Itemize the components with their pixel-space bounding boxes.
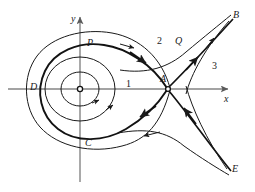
unstable-manifold-A-to-B	[169, 19, 233, 87]
arrow-region3-toward-B	[206, 38, 214, 48]
point-label-E: E	[232, 164, 238, 174]
lower-separatrix-to-E	[118, 131, 229, 175]
phase-portrait-canvas	[0, 0, 255, 192]
homoclinic-loop-path	[40, 44, 167, 139]
trajectories-toward-E	[118, 86, 229, 175]
region3-curve-to-B	[186, 21, 229, 94]
flow-direction-arrows-thin	[92, 38, 214, 136]
point-label-C: C	[85, 138, 92, 148]
center-equilibrium-marker	[77, 86, 82, 91]
arrow-loop-lower-from-A	[140, 106, 156, 117]
region-label-3: 3	[212, 61, 217, 71]
y-axis-label: y	[71, 14, 75, 24]
region3-curve-to-E	[186, 86, 227, 169]
trajectories-toward-B	[120, 15, 231, 94]
region-label-1: 1	[126, 79, 131, 89]
unstable-manifold-upper-path	[169, 19, 233, 87]
point-label-Q: Q	[175, 36, 182, 46]
point-label-D: D	[30, 82, 37, 92]
arrow-loop-upper-toward-A	[130, 52, 146, 63]
saddle-point-marker-A	[166, 87, 171, 92]
stable-manifold-lower-path	[169, 91, 231, 171]
region-label-2: 2	[157, 36, 162, 46]
phase-portrait-figure: y x P Q D C A B E 1 2 3	[0, 0, 255, 192]
point-label-B: B	[233, 10, 239, 20]
point-label-A: A	[160, 74, 166, 84]
x-axis-label: x	[224, 94, 228, 104]
point-label-P: P	[87, 38, 93, 48]
stable-manifold-E-to-A	[169, 91, 231, 171]
homoclinic-loop-curve	[40, 44, 167, 139]
arrow-outer-upper	[120, 44, 134, 48]
